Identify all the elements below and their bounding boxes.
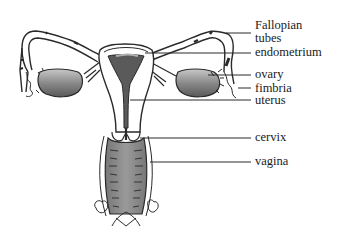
left-ligament	[84, 62, 100, 82]
left-ovary	[38, 69, 83, 97]
label-vagina: vagina	[255, 155, 288, 168]
vagina	[105, 138, 147, 214]
label-tubes: tubes	[255, 32, 302, 45]
label-cervix: cervix	[255, 131, 286, 144]
label-fallopian-tubes: Fallopian tubes	[255, 19, 302, 45]
label-uterus: uterus	[255, 94, 286, 107]
label-endometrium: endometrium	[255, 46, 322, 59]
label-ovary: ovary	[255, 68, 283, 81]
right-ovary	[176, 69, 220, 97]
